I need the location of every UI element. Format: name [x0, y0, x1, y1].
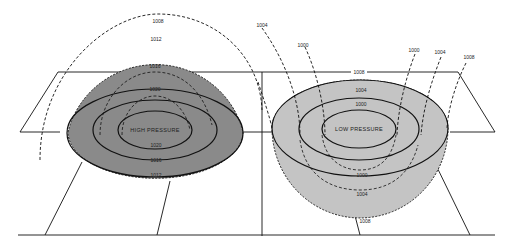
low-arc-label-1004-left: 1004 [256, 22, 267, 28]
low-pressure-bowl: 1004 1000 1000 1004 1008 1008 1004 1000 … [256, 22, 474, 224]
low-arc-label-1000-left: 1000 [297, 42, 308, 48]
low-bowl-label-1008: 1008 [359, 218, 370, 224]
high-label-1012-top: 1012 [150, 36, 161, 42]
low-label-1004: 1004 [355, 87, 366, 93]
pressure-diagram: 1008 1012 1016 1020 HIGH PRESSURE 1020 1… [0, 0, 512, 246]
high-label-1020: 1020 [150, 142, 161, 148]
low-pressure-label: LOW PRESSURE [335, 126, 383, 132]
high-pressure-label: HIGH PRESSURE [130, 127, 179, 133]
high-label-1016: 1016 [150, 157, 161, 163]
high-label-1020-dome: 1020 [149, 86, 160, 92]
high-pressure-dome: 1008 1012 1016 1020 HIGH PRESSURE 1020 1… [40, 14, 262, 178]
low-arc-label-1004-right: 1004 [434, 49, 445, 55]
low-bowl-label-1004: 1004 [356, 191, 367, 197]
low-bowl-label-1000: 1000 [356, 172, 367, 178]
low-arc-label-1000-right: 1000 [408, 47, 419, 53]
high-label-1008: 1008 [152, 18, 163, 24]
high-label-1012: 1012 [150, 172, 161, 178]
low-label-1000: 1000 [355, 101, 366, 107]
low-plane-label-1008: 1008 [353, 69, 364, 75]
low-arc-label-1008-right: 1008 [463, 54, 474, 60]
high-label-1016-dome: 1016 [149, 63, 160, 69]
